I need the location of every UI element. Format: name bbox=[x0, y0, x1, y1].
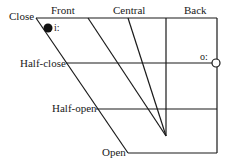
vowel-chart: Front Central Back Close Half-close Half… bbox=[0, 0, 229, 165]
vowel-chart-lines bbox=[0, 0, 229, 165]
column-label-front: Front bbox=[51, 5, 75, 16]
column-label-back: Back bbox=[184, 5, 207, 16]
row-label-half-close: Half-close bbox=[20, 58, 66, 69]
front-central-divider bbox=[88, 18, 166, 136]
central-divider bbox=[128, 18, 166, 136]
vowel-symbol-o: o: bbox=[200, 52, 208, 62]
row-label-half-open: Half-open bbox=[52, 103, 97, 114]
vowel-symbol-i: i: bbox=[54, 23, 60, 33]
front-edge bbox=[36, 18, 128, 153]
row-label-open: Open bbox=[102, 147, 126, 158]
close-front-dot-icon bbox=[44, 24, 53, 33]
half-close-back-circle-icon bbox=[212, 59, 220, 67]
column-label-central: Central bbox=[113, 5, 145, 16]
row-label-close: Close bbox=[9, 11, 34, 22]
